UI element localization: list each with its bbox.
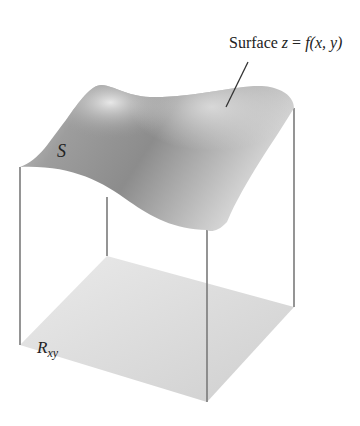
surface-label-args: (x, y): [310, 34, 343, 51]
surface-diagram: [0, 0, 360, 426]
region-symbol: R: [37, 338, 47, 357]
surface-label-prefix: Surface: [229, 34, 282, 51]
surface-s-label: S: [57, 141, 66, 162]
region-label: Rxy: [37, 338, 58, 361]
region-rxy: [20, 256, 294, 402]
region-subscript: xy: [47, 346, 58, 360]
surface-label-eq: =: [288, 34, 305, 51]
surface-label: Surface z = f(x, y): [229, 34, 342, 52]
